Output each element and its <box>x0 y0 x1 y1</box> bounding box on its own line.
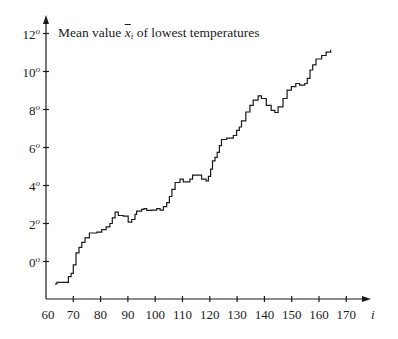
x-tick-label: 110 <box>168 308 198 321</box>
y-tick-label: 12o <box>10 28 40 41</box>
degree-mark: o <box>36 26 41 36</box>
degree-mark: o <box>36 178 41 188</box>
y-tick-label: 10o <box>10 66 40 79</box>
x-tick-label: 130 <box>222 308 252 321</box>
y-tick-label: 2o <box>10 218 40 231</box>
x-tick-label: 170 <box>331 308 361 321</box>
x-tick-label: 70 <box>58 308 88 321</box>
y-tick-label: 8o <box>10 104 40 117</box>
mean-temperature-line <box>55 50 331 284</box>
x-tick-label: 150 <box>277 308 307 321</box>
degree-mark: o <box>36 216 41 226</box>
degree-mark: o <box>36 254 41 264</box>
x-tick-label: 100 <box>140 308 170 321</box>
x-axis <box>46 296 371 302</box>
title-prefix: Mean value <box>58 25 121 40</box>
y-tick-value: 10 <box>23 65 36 80</box>
x-tick-label: 140 <box>249 308 279 321</box>
x-axis-arrow-icon <box>362 296 371 302</box>
title-subscript: i <box>131 31 134 41</box>
x-axis-label: i <box>371 308 375 321</box>
degree-mark: o <box>36 64 41 74</box>
chart-title: Mean value xi of lowest temperatures <box>58 26 260 43</box>
y-tick-label: 6o <box>10 142 40 155</box>
x-tick-label: 120 <box>195 308 225 321</box>
degree-mark: o <box>36 140 41 150</box>
x-tick-label: 160 <box>304 308 334 321</box>
y-tick-label: 4o <box>10 180 40 193</box>
y-tick-value: 12 <box>23 27 36 42</box>
title-suffix: of lowest temperatures <box>137 25 260 40</box>
chart-canvas <box>0 0 398 339</box>
y-tick-label: 0o <box>10 256 40 269</box>
x-tick-label: 90 <box>113 308 143 321</box>
y-axis-arrow-icon <box>43 15 49 24</box>
degree-mark: o <box>36 102 41 112</box>
x-tick-label: 80 <box>86 308 116 321</box>
y-axis <box>43 15 49 299</box>
